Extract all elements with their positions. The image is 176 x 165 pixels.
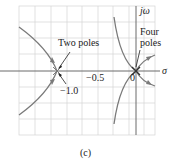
sigma-axis-label: σ	[162, 66, 167, 76]
jw-axis-label: jω	[140, 6, 150, 16]
tick-label-neg-0-5: −0.5	[86, 73, 104, 83]
arrow-down-right	[146, 80, 152, 85]
two-poles-annotation: Two poles	[58, 38, 99, 48]
figure-caption: (c)	[80, 148, 91, 158]
origin-label: 0	[130, 73, 135, 83]
four-poles-annotation: Four poles	[140, 26, 164, 48]
tick-label-neg-1-0: −1.0	[60, 86, 78, 96]
four-poles-leader	[136, 50, 140, 67]
arrow-up-right	[146, 56, 152, 61]
